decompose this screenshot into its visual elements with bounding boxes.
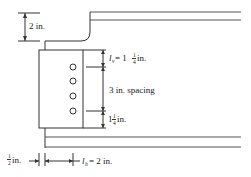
bolt-hole-icon (70, 78, 76, 84)
svg-text:1: 1 (113, 113, 116, 119)
arrow-down-icon (23, 36, 27, 41)
svg-text:4: 4 (113, 120, 116, 126)
svg-text:1: 1 (133, 52, 136, 58)
svg-text:= 1: = 1 (115, 53, 127, 63)
gap-label: 1 2 in. (7, 153, 21, 166)
connection-diagram: 2 in. l v = 1 1 4 in. 3 in. spacing 1 (0, 0, 251, 177)
bolt-hole-icon (70, 108, 76, 114)
lv-label: l v = 1 1 4 in. (109, 52, 146, 65)
cope-depth-dimension: 2 in. (18, 13, 45, 41)
bottom-flange (45, 128, 241, 148)
svg-text:in.: in. (12, 155, 21, 165)
svg-text:2: 2 (8, 160, 11, 166)
horizontal-dimensions (29, 153, 80, 166)
bolt-hole-icon (70, 64, 76, 70)
bottom-edge-distance-label: 1 1 4 in. (108, 113, 126, 126)
svg-text:in.: in. (117, 114, 126, 124)
bolt-holes (70, 64, 76, 114)
svg-text:h: h (85, 161, 88, 167)
svg-text:= 2 in.: = 2 in. (89, 156, 112, 166)
coped-web-edge (45, 20, 90, 50)
svg-text:in.: in. (137, 53, 146, 63)
lh-label: l h = 2 in. (82, 156, 112, 167)
bolt-spacing-label: 3 in. spacing (109, 85, 155, 95)
top-flange (90, 12, 241, 20)
svg-text:4: 4 (133, 59, 136, 65)
cope-depth-label: 2 in. (29, 21, 45, 31)
svg-text:1: 1 (8, 153, 11, 159)
arrow-up-icon (23, 13, 27, 18)
vertical-dimension-chain (83, 50, 106, 128)
svg-text:1: 1 (108, 114, 113, 124)
bolt-hole-icon (70, 93, 76, 99)
connection-plate (39, 50, 83, 128)
